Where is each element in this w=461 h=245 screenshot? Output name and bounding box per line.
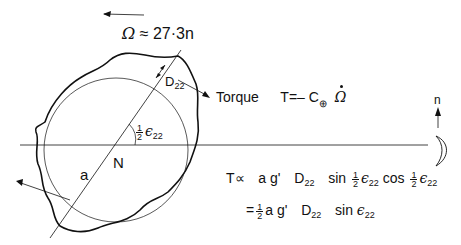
torque-word: Torque (216, 89, 259, 105)
simplified-equation: =12a g' D22 sin ϵ22 (246, 203, 375, 220)
sin-function: sin (335, 202, 353, 218)
equals-sign: = (246, 202, 254, 218)
fraction-denominator: 2 (256, 212, 263, 220)
d-subscript: 22 (304, 178, 314, 188)
torque-symbol: T (226, 170, 235, 186)
radius-label: a (80, 167, 88, 182)
sin-function: sin (328, 170, 346, 186)
torque-lhs: T (280, 89, 289, 105)
epsilon-symbol: ϵ (361, 170, 369, 186)
omega-value: 27·3n (153, 25, 194, 42)
half-fraction: 12 (256, 203, 263, 220)
half-fraction: 12 (410, 171, 417, 188)
moon-motion-arrow-head (435, 107, 441, 116)
omega-relation-label: Ω ≈ 27·3n (122, 26, 194, 42)
center-label: N (113, 155, 124, 170)
half-fraction: 12 (136, 124, 143, 141)
proportional-equation: T∝ a g' D22 sin 12ϵ22 cos 12ϵ22 (226, 171, 437, 188)
d22-label: D22 (165, 75, 184, 91)
d-subscript: 22 (311, 210, 321, 220)
moon-crescent-icon (436, 136, 447, 166)
fraction-denominator: 2 (410, 180, 417, 188)
moon-direction-label: n (434, 94, 441, 106)
a-g-terms: a g' (265, 202, 287, 218)
minus-sign: – (297, 89, 305, 105)
fraction-denominator: 2 (352, 180, 359, 188)
d-subscript: 22 (174, 81, 184, 91)
d-symbol: D (165, 74, 174, 89)
torque-arrow-lower (18, 182, 70, 200)
epsilon-subscript: 22 (153, 131, 163, 141)
earth-circle (44, 78, 188, 222)
approx-symbol: ≈ (140, 25, 149, 42)
epsilon-symbol: ϵ (357, 202, 365, 218)
torque-equation: Torque T=– C⊕ Ω (216, 90, 346, 109)
a-g-terms: a g' (258, 170, 280, 186)
equals-sign: = (289, 89, 297, 105)
half-fraction: 12 (352, 171, 359, 188)
d22-arrow-head-top (160, 65, 165, 70)
proportional-symbol: ∝ (235, 170, 245, 186)
epsilon-symbol: ϵ (145, 123, 153, 139)
torque-arrow-head (202, 91, 210, 98)
epsilon-subscript: 22 (369, 178, 379, 188)
earth-tidal-bulge-diagram (0, 0, 461, 245)
torque-arrow-lower-head (16, 179, 23, 186)
rotation-arrow-head (103, 11, 111, 17)
moment-of-inertia-symbol: C (309, 89, 319, 105)
epsilon-subscript: 22 (365, 210, 375, 220)
angle-label: 12ϵ22 (134, 124, 163, 141)
omega-symbol: Ω (122, 24, 135, 43)
fraction-denominator: 2 (136, 133, 143, 141)
earth-symbol-subscript: ⊕ (319, 98, 327, 109)
d-symbol: D (301, 202, 311, 218)
epsilon-subscript: 22 (427, 178, 437, 188)
omega-dot-symbol: Ω (335, 90, 347, 104)
d-symbol: D (294, 170, 304, 186)
d22-arrow-head-bottom (156, 73, 161, 78)
cos-function: cos (383, 170, 405, 186)
